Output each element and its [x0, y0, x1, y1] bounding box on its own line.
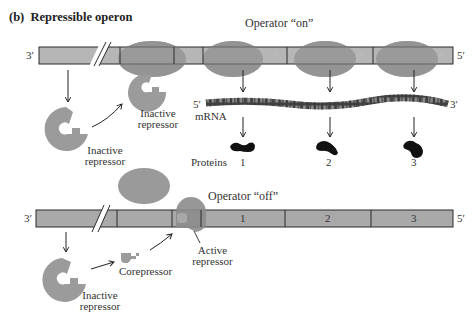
- protein-3-label: 3: [411, 156, 417, 168]
- corepressor-shape: [121, 253, 139, 263]
- gene-1-label: 1: [240, 212, 246, 224]
- protein-2-label: 2: [326, 156, 332, 168]
- bottom-dna-3prime-end: 3′: [24, 212, 32, 224]
- operator-off-label: Operator “off”: [208, 189, 278, 204]
- gene-3-label: 3: [411, 212, 417, 224]
- proteins-label: Proteins: [191, 156, 227, 168]
- inactive-repressor-label-bottom: Inactive repressor: [75, 290, 125, 312]
- bottom-dna-5prime-end: 5′: [457, 212, 465, 224]
- operator-on-label: Operator “on”: [245, 16, 313, 31]
- inactive-repressor-label-top-left: Inactive repressor: [80, 145, 130, 167]
- top-dna-5prime-end: 5′: [457, 49, 465, 61]
- panel-title: (b) Repressible operon: [9, 10, 132, 25]
- protein-1-shape: [230, 142, 255, 152]
- panel-label: (b): [9, 10, 24, 24]
- protein-1-label: 1: [240, 156, 246, 168]
- top-dna-strand: [39, 41, 453, 77]
- protein-2-shape: [316, 141, 338, 155]
- operon-diagram-graphics: [0, 0, 476, 317]
- mrna-3prime-end: 3′: [450, 98, 458, 110]
- mrna-5prime-end: 5′: [193, 98, 201, 110]
- mrna-label: mRNA: [195, 110, 227, 122]
- panel-title-text: Repressible operon: [30, 10, 132, 24]
- gene-2-label: 2: [325, 212, 331, 224]
- inactive-repressor-label-top-right: Inactive repressor: [133, 108, 183, 130]
- active-repressor-label: Active repressor: [190, 245, 235, 267]
- top-dna-3prime-end: 3′: [26, 49, 34, 61]
- rna-polymerase-blocked: [118, 168, 170, 204]
- corepressor-label: Corepressor: [119, 265, 172, 277]
